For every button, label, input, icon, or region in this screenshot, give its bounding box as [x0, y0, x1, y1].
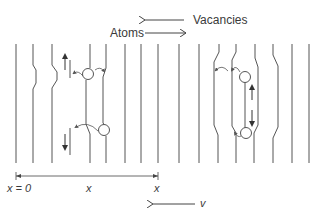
jump-arrow: [74, 72, 83, 76]
diffusion-diagram: [0, 0, 322, 217]
x-end-label: x: [154, 182, 160, 194]
lattice-planes: [16, 44, 309, 163]
velocity-label: v: [200, 197, 206, 209]
vacancy-circle: [241, 128, 252, 139]
x-mid-label: x: [86, 182, 92, 194]
vacancy-circle: [99, 125, 110, 136]
vacancies-label: Vacancies: [193, 13, 247, 27]
jump-arrow: [216, 67, 228, 71]
atoms-label: Atoms: [110, 26, 144, 40]
vacancy-circle: [240, 72, 251, 83]
x-zero-label: x = 0: [7, 182, 31, 194]
jump-arrow: [232, 67, 240, 72]
vacancy-circle: [83, 69, 94, 80]
jump-arrow: [95, 68, 104, 71]
